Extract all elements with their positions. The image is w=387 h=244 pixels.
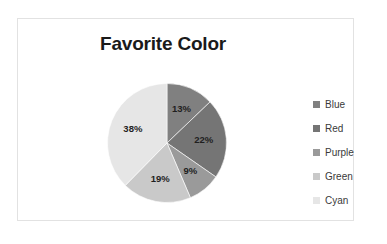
legend-item-blue[interactable]: Blue — [313, 92, 383, 116]
legend-swatch-icon — [313, 173, 320, 180]
pie-data-label-blue: 13% — [172, 103, 192, 114]
legend-item-red[interactable]: Red — [313, 116, 383, 140]
legend-swatch-icon — [313, 125, 320, 132]
legend-item-label: Red — [325, 123, 343, 134]
pie-data-label-red: 22% — [194, 134, 214, 145]
legend-item-green[interactable]: Green — [313, 164, 383, 188]
chart-frame: Favorite Color 13%22%9%19%38% BlueRedPur… — [17, 18, 354, 221]
pie-data-label-green: 19% — [151, 173, 171, 184]
legend-item-purple[interactable]: Purple — [313, 140, 383, 164]
legend-item-cyan[interactable]: Cyan — [313, 188, 383, 212]
legend-swatch-icon — [313, 101, 320, 108]
pie-chart-plot-area: 13%22%9%19%38% — [107, 83, 227, 203]
chart-legend: BlueRedPurpleGreenCyan — [313, 92, 383, 212]
legend-swatch-icon — [313, 149, 320, 156]
legend-item-label: Cyan — [325, 195, 348, 206]
legend-swatch-icon — [313, 197, 320, 204]
chart-screenshot: Favorite Color 13%22%9%19%38% BlueRedPur… — [0, 0, 387, 244]
legend-item-label: Purple — [325, 147, 354, 158]
chart-title: Favorite Color — [18, 33, 308, 55]
legend-item-label: Green — [325, 171, 353, 182]
pie-data-label-cyan: 38% — [123, 123, 143, 134]
legend-item-label: Blue — [325, 99, 345, 110]
pie-chart-svg: 13%22%9%19%38% — [107, 83, 227, 203]
pie-data-label-purple: 9% — [183, 165, 197, 176]
